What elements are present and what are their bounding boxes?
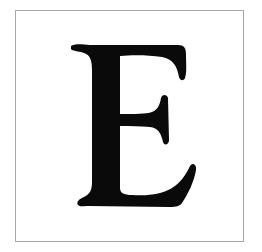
- letter-e-shape: [71, 44, 196, 207]
- letter-e-glyph: [0, 0, 262, 252]
